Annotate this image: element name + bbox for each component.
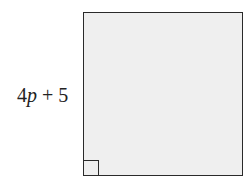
square-shape: [83, 12, 243, 176]
label-coefficient: 4: [17, 84, 27, 106]
label-constant: + 5: [37, 84, 68, 106]
right-angle-icon: [83, 160, 99, 176]
label-variable: p: [27, 84, 37, 106]
side-length-label: 4p + 5: [17, 84, 68, 107]
